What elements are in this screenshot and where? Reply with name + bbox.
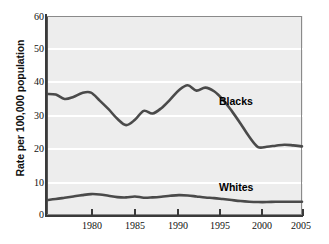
x-tick-mark-2005 <box>302 209 304 216</box>
y-axis-line <box>45 14 47 217</box>
x-tick-label-1980: 1980 <box>72 220 112 231</box>
x-tick-label-1995: 1995 <box>200 220 240 231</box>
x-tick-mark-1980 <box>91 209 93 216</box>
y-tick-label-40: 40 <box>20 76 44 87</box>
y-tick-label-10: 10 <box>20 177 44 188</box>
y-tick-label-30: 30 <box>20 110 44 121</box>
chart-container: Rate per 100,000 population Blacks White… <box>0 0 329 244</box>
series-label-blacks: Blacks <box>219 95 253 107</box>
y-tick-label-20: 20 <box>20 143 44 154</box>
x-tick-mark-1985 <box>134 209 136 216</box>
series-line-blacks <box>47 85 302 147</box>
x-tick-mark-1995 <box>219 209 221 216</box>
x-tick-label-1985: 1985 <box>115 220 155 231</box>
x-axis-line <box>45 215 303 217</box>
y-tick-label-60: 60 <box>20 11 44 22</box>
x-tick-mark-2000 <box>261 209 263 216</box>
x-tick-label-1990: 1990 <box>158 220 198 231</box>
series-line-whites <box>47 194 302 202</box>
y-tick-label-50: 50 <box>20 43 44 54</box>
y-tick-label-0: 0 <box>20 209 44 220</box>
x-tick-label-2000: 2000 <box>242 220 282 231</box>
series-lines <box>47 16 302 215</box>
x-tick-mark-1990 <box>177 209 179 216</box>
x-tick-label-2005: 2005 <box>281 220 321 231</box>
series-label-whites: Whites <box>219 181 253 193</box>
